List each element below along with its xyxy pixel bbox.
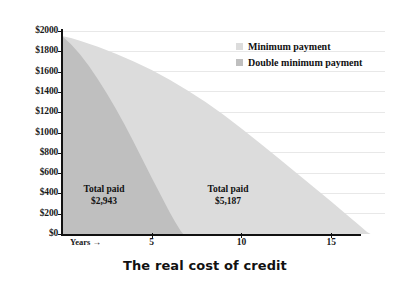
x-axis-tick-label: 15 (326, 238, 336, 248)
y-axis-tick-label: $1800 (2, 46, 58, 56)
y-axis-tick-label: $600 (2, 168, 58, 178)
y-axis-tick-mark (58, 214, 63, 215)
x-axis-tick-mark (152, 233, 153, 238)
x-axis-line (61, 234, 361, 236)
y-axis-tick-mark (58, 193, 63, 194)
x-axis-tick-label: 5 (149, 238, 154, 248)
y-axis-tick-label: $200 (2, 209, 58, 219)
y-axis-tick-label: $800 (2, 148, 58, 158)
legend-label-minimum-payment: Minimum payment (248, 42, 331, 52)
y-axis-tick-label: $2000 (2, 26, 58, 36)
y-axis-tick-label: $400 (2, 188, 58, 198)
y-axis-tick-mark (58, 173, 63, 174)
y-axis-tick-mark (58, 31, 63, 32)
x-axis-label: Years → (70, 238, 101, 247)
y-axis-tick-mark (58, 92, 63, 93)
y-axis-tick-mark (58, 133, 63, 134)
annotation-total-paid-double-minimum: Total paid $2,943 (66, 184, 142, 208)
chart-figure: $2000$1800$1600$1400$1200$1000$800$600$4… (0, 0, 410, 285)
legend-item-double-minimum-payment: Double minimum payment (236, 56, 362, 69)
annotation-title: Total paid (190, 184, 266, 196)
y-axis-tick-label: $0 (2, 229, 58, 239)
legend-item-minimum-payment: Minimum payment (236, 40, 362, 53)
y-axis-tick-mark (58, 51, 63, 52)
legend-label-double-minimum-payment: Double minimum payment (248, 58, 362, 68)
annotation-value: $2,943 (66, 196, 142, 208)
y-axis-tick-mark (58, 112, 63, 113)
annotation-total-paid-minimum: Total paid $5,187 (190, 184, 266, 208)
y-axis-ticks: $2000$1800$1600$1400$1200$1000$800$600$4… (0, 0, 58, 285)
y-axis-tick-label: $1000 (2, 128, 58, 138)
y-axis-tick-mark (58, 153, 63, 154)
annotation-title: Total paid (66, 184, 142, 196)
y-axis-tick-label: $1600 (2, 67, 58, 77)
annotation-value: $5,187 (190, 196, 266, 208)
y-axis-tick-mark (58, 72, 63, 73)
y-axis-tick-label: $1400 (2, 87, 58, 97)
x-axis-tick-mark (241, 233, 242, 238)
x-axis-tick-label: 10 (237, 238, 247, 248)
legend-swatch-minimum-payment (236, 43, 243, 50)
chart-legend: Minimum payment Double minimum payment (236, 40, 362, 72)
x-axis-tick-mark (331, 233, 332, 238)
chart-title: The real cost of credit (0, 258, 410, 273)
legend-swatch-double-minimum-payment (236, 59, 243, 66)
y-axis-tick-mark (58, 234, 63, 235)
y-axis-tick-label: $1200 (2, 107, 58, 117)
